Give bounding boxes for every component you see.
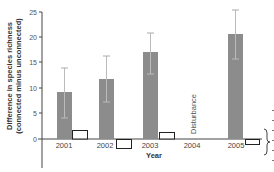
y-tick-label: 15 [29,59,37,66]
bar-group-2004: Disturbance 2004 [184,94,201,150]
svg-text:(connected minus unconnected): (connected minus unconnected) [14,18,23,134]
y-ticks: 25 20 15 10 5 0 [29,9,42,143]
x-axis-title: Year [146,151,162,160]
chart-canvas: 25 20 15 10 5 0 Difference in species ri… [0,0,274,172]
brace-icon [264,129,270,155]
white-bar [160,133,175,140]
x-tick-label: 2005 [228,141,245,150]
svg-text:Difference in species richness: Difference in species richness [5,22,14,130]
y-tick-label: 20 [29,34,37,41]
x-tick-label: 2003 [142,141,159,150]
y-tick-label: 10 [29,85,37,92]
y-tick-label: 5 [33,110,37,117]
bar-group-2005: 2005 [228,10,260,150]
y-tick-label: 0 [33,136,37,143]
y-axis-title: Difference in species richness (connecte… [5,18,23,134]
bar-group-2003: 2003 [142,33,175,150]
x-tick-label: 2002 [97,141,114,150]
bar-group-2002: 2002 [97,56,132,150]
disturbance-annotation: Disturbance [189,94,198,134]
bar-group-2001: 2001 [56,68,88,150]
white-bar [117,140,132,149]
x-tick-label: 2001 [56,141,73,150]
white-bar [73,131,88,140]
white-bar [246,140,260,145]
cropped-legend-text [272,110,274,161]
y-tick-label: 25 [29,9,37,16]
x-tick-label: 2004 [184,141,201,150]
